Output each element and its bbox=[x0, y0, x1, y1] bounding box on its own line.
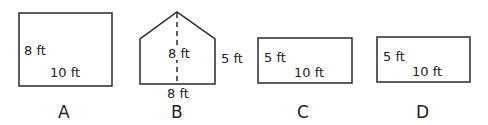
figure-a-height-label: 8 ft bbox=[24, 44, 46, 57]
figure-c-width-label: 10 ft bbox=[294, 66, 324, 79]
figure-c-height-label: 5 ft bbox=[264, 51, 286, 64]
figure-b-caption: B bbox=[171, 104, 183, 121]
figure-a-caption: A bbox=[58, 104, 70, 121]
figures-canvas bbox=[0, 0, 488, 125]
figure-d-height-label: 5 ft bbox=[383, 50, 405, 63]
figure-d-caption: D bbox=[416, 104, 429, 121]
figure-c-caption: C bbox=[297, 104, 309, 121]
figure-b-center-height-label: 8 ft bbox=[168, 47, 190, 60]
figure-b-side-height-label: 5 ft bbox=[221, 52, 243, 65]
figure-b-base-label: 8 ft bbox=[167, 87, 189, 100]
figure-d-width-label: 10 ft bbox=[412, 65, 442, 78]
figure-a-width-label: 10 ft bbox=[50, 66, 80, 79]
